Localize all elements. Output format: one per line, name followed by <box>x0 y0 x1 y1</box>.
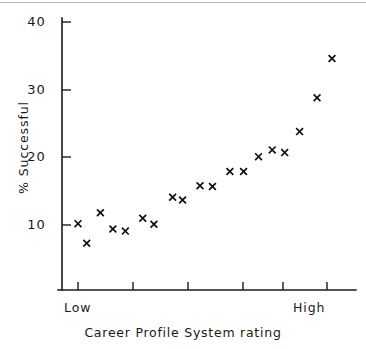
data-point-marker <box>83 240 90 247</box>
data-point-marker <box>255 153 262 160</box>
data-point-marker <box>240 168 247 175</box>
data-point-marker <box>169 194 176 201</box>
data-point-marker <box>179 197 186 204</box>
data-point-group <box>75 55 336 247</box>
data-point-marker <box>296 128 303 135</box>
data-point-marker <box>97 209 104 216</box>
data-point-marker <box>209 183 216 190</box>
plot-area <box>0 0 366 349</box>
data-point-marker <box>329 55 336 62</box>
data-point-marker <box>226 168 233 175</box>
data-point-marker <box>197 182 204 189</box>
data-point-marker <box>109 226 116 233</box>
data-point-marker <box>139 215 146 222</box>
data-point-marker <box>281 149 288 156</box>
data-point-marker <box>122 228 129 235</box>
chart-figure: 40 30 20 10 Low High Career Profile Syst… <box>0 0 366 349</box>
data-point-marker <box>314 94 321 101</box>
data-point-marker <box>151 221 158 228</box>
data-point-marker <box>269 146 276 153</box>
data-point-marker <box>75 220 82 227</box>
